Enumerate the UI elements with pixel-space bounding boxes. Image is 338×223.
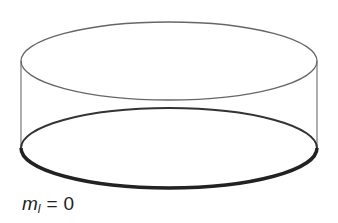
label-subscript: l bbox=[38, 202, 41, 216]
label-equals: = bbox=[47, 193, 58, 214]
bottom-ring-thick-front bbox=[21, 148, 317, 188]
top-ellipse bbox=[21, 22, 317, 100]
label-symbol: m bbox=[22, 193, 38, 214]
cylinder-diagram bbox=[0, 0, 338, 223]
label-value: 0 bbox=[64, 193, 75, 214]
quantum-number-label: ml=0 bbox=[22, 193, 74, 216]
